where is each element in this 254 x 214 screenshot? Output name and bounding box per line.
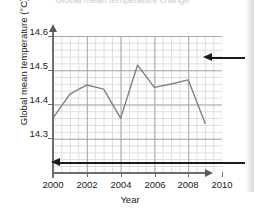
x-axis-title: Year — [53, 194, 207, 205]
lower-annotation-line — [60, 162, 254, 164]
x-tick-mark-2002 — [87, 172, 88, 177]
x-tick-mark-2000 — [53, 172, 54, 177]
y-tick-mark-14-6 — [48, 36, 53, 37]
x-axis-arrow-icon — [205, 169, 213, 177]
x-axis-line — [53, 172, 207, 174]
x-tick-mark-2008 — [188, 172, 189, 177]
x-tick-mark-2004 — [121, 172, 122, 177]
y-axis-arrow-icon — [49, 24, 57, 32]
x-tick-label-2000: 2000 — [36, 179, 70, 190]
upper-annotation-arrowhead-icon — [203, 53, 212, 61]
x-tick-label-2002: 2002 — [70, 179, 104, 190]
x-tick-label-2008: 2008 — [171, 179, 205, 190]
x-tick-label-2004: 2004 — [104, 179, 138, 190]
y-tick-mark-14-3 — [48, 138, 53, 139]
x-tick-label-2010: 2010 — [205, 179, 239, 190]
temperature-line-series — [53, 36, 222, 173]
x-tick-label-2006: 2006 — [138, 179, 172, 190]
y-tick-mark-14-4 — [48, 104, 53, 105]
plot-area — [53, 36, 222, 173]
page-edge-shadow — [245, 0, 254, 214]
x-tick-mark-2010 — [222, 172, 223, 177]
page-corner-cut — [245, 192, 254, 214]
y-tick-mark-14-5 — [48, 70, 53, 71]
x-tick-mark-2006 — [155, 172, 156, 177]
lower-annotation-arrowhead-icon — [51, 158, 60, 166]
y-axis-title: Global mean temperature (°C) — [18, 0, 29, 137]
